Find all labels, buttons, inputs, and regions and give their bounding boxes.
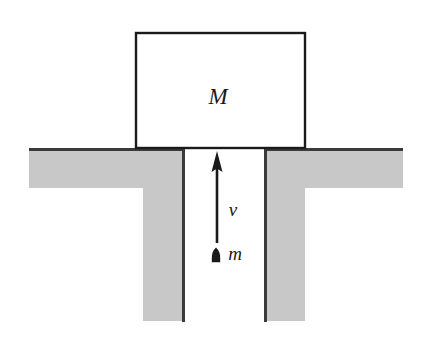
physics-diagram: M v m bbox=[0, 0, 423, 348]
ground-slab-left bbox=[29, 150, 185, 188]
gap-edge-right bbox=[264, 150, 267, 322]
gap-edge-left bbox=[182, 150, 185, 322]
velocity-label: v bbox=[229, 199, 238, 220]
block-M: M bbox=[136, 33, 305, 148]
ground-slab-right bbox=[264, 150, 403, 188]
ground-wall-right bbox=[264, 188, 305, 321]
bullet-label: m bbox=[228, 243, 242, 264]
block-M-label: M bbox=[207, 84, 229, 109]
ground-wall-left bbox=[143, 188, 185, 321]
diagram-canvas: M v m bbox=[0, 0, 423, 348]
